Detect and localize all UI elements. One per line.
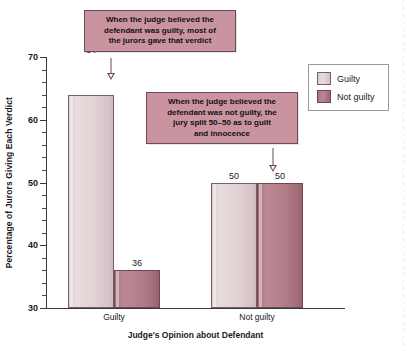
- y-tick-minor: [42, 295, 46, 296]
- callout-line: jury split 50–50 as to guilt: [152, 118, 292, 129]
- callout-arrow-1: [105, 58, 117, 80]
- callout-line: defendant was guilty, most of: [90, 26, 230, 37]
- y-tick-label-30: 30: [28, 303, 38, 313]
- y-tick-minor: [42, 70, 46, 71]
- legend-label: Not guilty: [337, 92, 375, 102]
- y-tick-minor: [42, 233, 46, 234]
- arrow-head-inner: [271, 166, 275, 170]
- legend: Guilty Not guilty: [308, 64, 389, 111]
- y-tick-major-30: [40, 308, 46, 309]
- callout-line: the jurors gave that verdict: [90, 36, 230, 47]
- bar-value-label: 36: [132, 258, 142, 268]
- legend-label: Guilty: [337, 74, 360, 84]
- bar-highlight: [213, 184, 216, 308]
- y-tick-minor: [42, 270, 46, 271]
- bar-highlight: [259, 184, 262, 308]
- y-tick-minor: [42, 258, 46, 259]
- y-tick-minor: [42, 82, 46, 83]
- chart-figure: Percentage of Jurors Giving Each Verdict…: [0, 0, 407, 351]
- y-tick-minor: [42, 95, 46, 96]
- bar-notguilty-notguilty[interactable]: [257, 183, 303, 309]
- arrow-stem: [273, 148, 274, 166]
- y-tick-minor: [42, 283, 46, 284]
- y-tick-minor: [42, 145, 46, 146]
- callout-arrow-2: [267, 148, 279, 172]
- bar-value-label: 50: [275, 171, 285, 181]
- x-category-label-not-guilty: Not guilty: [189, 312, 325, 322]
- bar-notguilty-guilty[interactable]: [211, 183, 257, 309]
- y-tick-major-60: [40, 120, 46, 121]
- bar-highlight: [70, 96, 73, 307]
- legend-swatch-icon: [317, 72, 331, 85]
- y-tick-major-40: [40, 245, 46, 246]
- y-tick-minor: [42, 220, 46, 221]
- arrow-stem: [111, 58, 112, 74]
- y-tick-minor: [42, 132, 46, 133]
- callout-line: When the judge believed the: [152, 97, 292, 108]
- callout-split-verdict: When the judge believed the defendant wa…: [146, 92, 298, 144]
- y-tick-minor: [42, 170, 46, 171]
- bar-guilty-guilty[interactable]: [68, 95, 114, 308]
- legend-swatch-icon: [317, 90, 331, 103]
- callout-guilty-verdict: When the judge believed the defendant wa…: [84, 10, 236, 52]
- callout-line: and innocence: [152, 129, 292, 140]
- y-tick-label-40: 40: [28, 240, 38, 250]
- y-tick-major-70: [40, 57, 46, 58]
- arrow-head-inner: [109, 74, 113, 78]
- bar-value-label: 50: [229, 171, 239, 181]
- x-axis-line: [46, 308, 345, 309]
- page-edge-artifact: [403, 0, 404, 351]
- y-tick-minor: [42, 195, 46, 196]
- y-axis-title-text: Percentage of Jurors Giving Each Verdict: [4, 97, 14, 268]
- bar-highlight: [116, 271, 119, 307]
- y-tick-minor: [42, 157, 46, 158]
- callout-line: When the judge believed the: [90, 15, 230, 26]
- bar-guilty-notguilty[interactable]: [114, 270, 160, 308]
- y-tick-major-50: [40, 183, 46, 184]
- y-tick-label-60: 60: [28, 115, 38, 125]
- x-category-label-guilty: Guilty: [46, 312, 182, 322]
- x-axis-title: Judge's Opinion about Defendant: [46, 330, 345, 340]
- y-axis-title: Percentage of Jurors Giving Each Verdict: [2, 57, 16, 309]
- legend-item-guilty[interactable]: Guilty: [317, 72, 379, 85]
- y-tick-label-70: 70: [28, 52, 38, 62]
- callout-line: defendant was not guilty, the: [152, 108, 292, 119]
- legend-item-not-guilty[interactable]: Not guilty: [317, 90, 379, 103]
- y-tick-minor: [42, 208, 46, 209]
- y-tick-label-50: 50: [28, 178, 38, 188]
- y-tick-minor: [42, 107, 46, 108]
